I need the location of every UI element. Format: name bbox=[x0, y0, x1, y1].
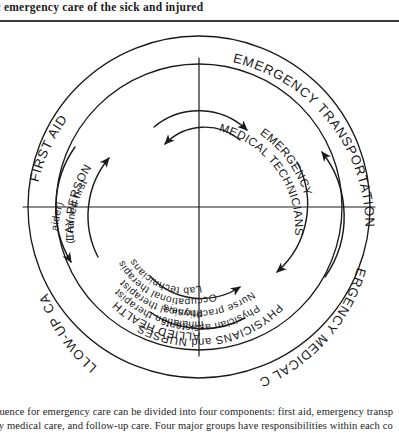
emergency-care-cycle-diagram: FIRST AID EMERGENCY TRANSPORTATION EMERG… bbox=[0, 22, 399, 392]
inner-group-lay-person: LAY PERSON (Trained first aider) bbox=[49, 161, 93, 243]
inner-line-lay-person-1: (Trained first bbox=[64, 178, 89, 244]
emergency-care-cycle-figure: FIRST AID EMERGENCY TRANSPORTATION EMERG… bbox=[0, 22, 399, 392]
figure-caption: quence for emergency care can be divided… bbox=[0, 404, 399, 433]
caption-line-1: quence for emergency care can be divided… bbox=[0, 406, 393, 417]
inner-group-allied-health: ALLIED HEALTH Inhalation therapist Physi… bbox=[0, 22, 218, 343]
page-running-head: ic emergency care of the sick and injure… bbox=[0, 0, 399, 22]
inner-group-emergency-medical-technicians: EMERGENCY MEDICAL TECHNICIANS bbox=[218, 121, 315, 237]
caption-line-2: cy medical care, and follow-up care. Fou… bbox=[0, 420, 393, 431]
outer-label-follow-up-care: FOLLOW-UP CARE bbox=[0, 22, 99, 376]
outer-label-first-aid: FIRST AID bbox=[27, 112, 71, 184]
running-head-text: ic emergency care of the sick and injure… bbox=[0, 1, 203, 13]
